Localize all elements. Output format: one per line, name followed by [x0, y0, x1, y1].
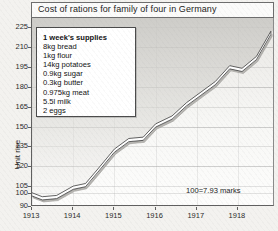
legend-list: 1 week's supplies8kg bread1kg flour14kg … — [37, 28, 135, 115]
x-axis-tick-label: 1917 — [187, 211, 204, 220]
y-axis-tick-mark — [28, 27, 31, 28]
chart-annotation: 100=7.93 marks — [186, 186, 241, 195]
legend-item: 1kg flour — [43, 51, 135, 60]
x-axis-tick-mark — [31, 207, 32, 210]
y-axis-tick-label: 90 — [20, 202, 28, 210]
y-axis-label: Unit rise — [13, 129, 22, 181]
y-axis-tick-label: 195 — [15, 63, 28, 71]
x-axis-tick-mark — [72, 207, 73, 210]
y-axis-tick-mark — [28, 127, 31, 128]
y-axis-tick-label: 210 — [15, 43, 28, 51]
x-axis-tick-label: 1918 — [229, 211, 246, 220]
y-axis-tick-mark — [28, 107, 31, 108]
x-axis-tick-mark — [196, 207, 197, 210]
legend-heading: 1 week's supplies — [43, 33, 135, 42]
y-axis-tick-mark — [28, 47, 31, 48]
legend-item: 8kg bread — [43, 42, 135, 51]
y-axis-tick-mark — [28, 193, 31, 194]
x-axis-tick-label: 1916 — [146, 211, 163, 220]
chart-figure: Cost of rations for family of four in Ge… — [0, 0, 278, 231]
y-axis-tick-label: 180 — [15, 83, 28, 91]
legend-item: 0.975kg meat — [43, 88, 135, 97]
y-axis-tick-label: 100 — [15, 189, 28, 197]
legend-item: 14kg potatoes — [43, 60, 135, 69]
legend-item: 5.5l milk — [43, 97, 135, 106]
legend-item: 0.3kg butter — [43, 78, 135, 87]
x-axis: 191319141915191619171918 — [31, 207, 274, 229]
y-axis-tick-mark — [28, 166, 31, 167]
y-axis-tick-label: 225 — [15, 23, 28, 31]
y-axis-tick-mark — [28, 87, 31, 88]
legend-item: 0.9kg sugar — [43, 69, 135, 78]
y-axis-tick-mark — [28, 146, 31, 147]
y-axis-tick-mark — [28, 186, 31, 187]
x-axis-tick-mark — [113, 207, 114, 210]
x-axis-tick-label: 1914 — [64, 211, 81, 220]
x-axis-tick-label: 1913 — [23, 211, 40, 220]
y-axis-tick-label: 165 — [15, 103, 28, 111]
page-title: Cost of rations for family of four in Ge… — [38, 4, 217, 14]
x-axis-tick-mark — [237, 207, 238, 210]
chart-title-box: Cost of rations for family of four in Ge… — [31, 2, 274, 18]
x-axis-tick-mark — [155, 207, 156, 210]
x-axis-tick-label: 1915 — [105, 211, 122, 220]
legend-item: 2 eggs — [43, 106, 135, 115]
y-axis-tick-mark — [28, 67, 31, 68]
legend-box: 1 week's supplies8kg bread1kg flour14kg … — [36, 27, 136, 117]
